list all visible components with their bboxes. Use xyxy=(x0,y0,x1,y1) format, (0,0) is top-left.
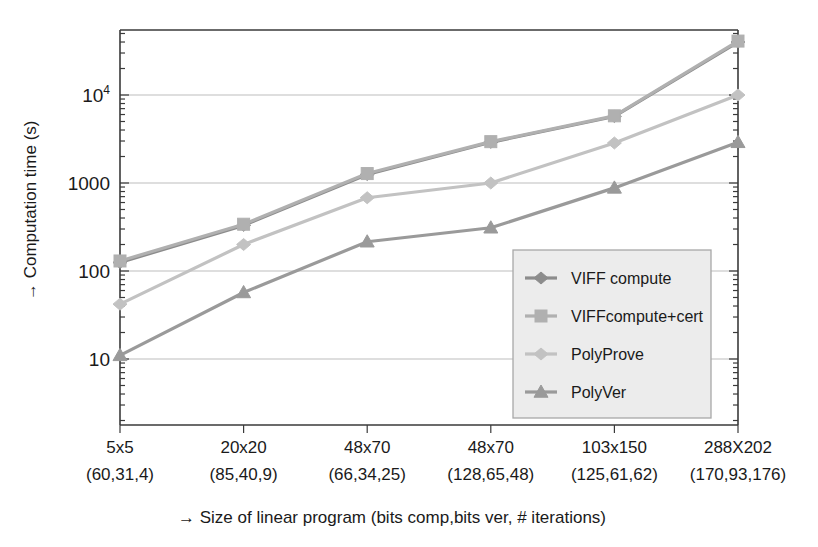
legend-item-label: PolyVer xyxy=(571,384,627,401)
x-axis-category-labels: 5x5(60,31,4)20x20(85,40,9)48x70(66,34,25… xyxy=(86,438,786,484)
x-category-label: 5x5 xyxy=(106,438,133,457)
legend-item-label: VIFF compute xyxy=(571,270,672,287)
y-tick-label: 100 xyxy=(78,261,110,282)
x-category-sublabel: (66,34,25) xyxy=(328,465,406,484)
x-category-label: 48x70 xyxy=(468,438,514,457)
computation-time-line-chart: 101001000104 5x5(60,31,4)20x20(85,40,9)4… xyxy=(0,0,818,547)
x-category-sublabel: (128,65,48) xyxy=(447,465,534,484)
x-category-label: 20x20 xyxy=(220,438,266,457)
data-point-marker xyxy=(535,310,547,322)
data-point-marker xyxy=(361,168,373,180)
legend-item-label: PolyProve xyxy=(571,346,644,363)
series-line xyxy=(120,41,738,261)
series-line xyxy=(120,42,738,262)
x-axis-ticks xyxy=(120,425,738,433)
chart-container: 101001000104 5x5(60,31,4)20x20(85,40,9)4… xyxy=(0,0,818,547)
x-category-sublabel: (125,61,62) xyxy=(571,465,658,484)
chart-legend: VIFF computeVIFFcompute+certPolyProvePol… xyxy=(513,250,711,418)
data-point-marker xyxy=(237,239,251,251)
data-point-marker xyxy=(113,298,127,310)
data-point-marker xyxy=(114,255,126,267)
x-category-label: 103x150 xyxy=(582,438,647,457)
series-viffcompute-cert xyxy=(114,35,744,267)
x-category-sublabel: (170,93,176) xyxy=(690,465,786,484)
y-tick-label: 104 xyxy=(82,83,110,106)
data-point-marker xyxy=(732,35,744,47)
x-axis-title: → Size of linear program (bits comp,bits… xyxy=(178,508,606,527)
y-axis-title: → Computation time (s) xyxy=(21,121,40,301)
legend-item-label: VIFFcompute+cert xyxy=(571,308,704,325)
x-category-sublabel: (85,40,9) xyxy=(210,465,278,484)
x-axis-title-text: → Size of linear program (bits comp,bits… xyxy=(178,508,606,527)
x-category-sublabel: (60,31,4) xyxy=(86,465,154,484)
data-point-marker xyxy=(484,177,498,189)
data-point-marker xyxy=(485,136,497,148)
data-point-marker xyxy=(608,110,620,122)
data-point-marker xyxy=(238,218,250,230)
y-tick-label: 10 xyxy=(89,349,110,370)
x-category-label: 288X202 xyxy=(704,438,772,457)
y-axis-tick-labels: 101001000104 xyxy=(68,83,111,370)
x-category-label: 48x70 xyxy=(344,438,390,457)
y-tick-label: 1000 xyxy=(68,173,110,194)
data-point-marker xyxy=(360,192,374,204)
y-axis-title-text: → Computation time (s) xyxy=(21,121,40,301)
data-point-marker xyxy=(607,137,621,149)
